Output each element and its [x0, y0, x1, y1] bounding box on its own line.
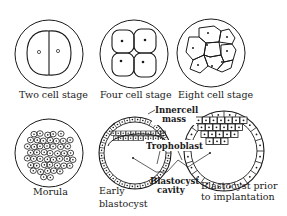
nucleus [112, 178, 114, 180]
nucleus [137, 186, 139, 188]
nucleus [137, 119, 139, 121]
trophoblast-label: Trophoblast [146, 141, 203, 151]
nucleus [224, 140, 226, 142]
nucleus [228, 119, 230, 121]
eight-cell-stage [177, 19, 245, 87]
nucleus [208, 126, 210, 128]
blastomere [112, 53, 134, 76]
nucleus [231, 126, 233, 128]
nucleus [142, 61, 145, 64]
nucleus [30, 164, 32, 166]
nucleus [47, 134, 49, 136]
trophoblast-cell-wall [103, 167, 107, 169]
nucleus [109, 174, 111, 176]
nucleus [43, 176, 45, 178]
late-blastocyst-label-line1: Blastocyst prior [201, 180, 278, 191]
nucleus [130, 138, 131, 139]
trophoblast-cell-wall [166, 158, 171, 159]
nucleus [36, 139, 38, 141]
nucleus [229, 114, 231, 116]
trophoblast-cell-wall [103, 137, 107, 139]
trophoblast-cell-wall [101, 142, 106, 144]
trophoblast-cell-wall [99, 158, 104, 159]
nucleus [226, 50, 228, 52]
nucleus [47, 170, 49, 172]
nucleus [112, 127, 114, 129]
nucleus [259, 144, 261, 146]
nucleus [120, 138, 121, 139]
nucleus [72, 159, 74, 161]
nucleus [60, 146, 62, 148]
nucleus [142, 120, 144, 122]
embryo-stages-diagram: Two cell stage Four cell stage Eight cel… [0, 0, 287, 216]
pointer-dot [132, 157, 134, 159]
nucleus [216, 126, 218, 128]
nucleus [165, 165, 167, 167]
nucleus [103, 139, 105, 141]
four-cell-label: Four cell stage [100, 89, 172, 100]
nucleus [226, 36, 228, 38]
nucleus [53, 170, 55, 172]
nucleus [39, 133, 41, 135]
nucleus [198, 119, 200, 121]
nucleus [259, 156, 261, 158]
trophoblast-cell-wall [192, 170, 198, 174]
nucleus [60, 133, 62, 135]
trophoblast-cell-wall [157, 128, 161, 132]
trophoblast-cell-wall [186, 161, 193, 163]
nucleus [235, 119, 237, 121]
nucleus [33, 146, 35, 148]
trophoblast-cell-wall [129, 117, 130, 122]
nucleus [223, 126, 225, 128]
blastomere-right [49, 31, 71, 75]
nucleus [69, 165, 71, 167]
nucleus [101, 150, 103, 152]
nucleus [206, 44, 208, 46]
nucleus [125, 138, 126, 139]
nucleus [168, 155, 170, 157]
nucleus [143, 133, 144, 134]
nucleus [132, 119, 134, 121]
nucleus [106, 170, 108, 172]
late-blastocyst-label-line2: to implantation [201, 191, 275, 202]
nucleus [128, 133, 129, 134]
nucleus [69, 139, 71, 141]
nucleus [62, 140, 64, 142]
nucleus [256, 134, 258, 136]
nucleus [191, 167, 193, 169]
nucleus [66, 158, 68, 160]
nucleus [256, 167, 258, 169]
nucleus [204, 133, 206, 135]
trophoblast-cell-wall [99, 147, 104, 148]
nucleus [211, 65, 213, 67]
nucleus [126, 185, 128, 187]
nucleus [44, 164, 46, 166]
nucleus [234, 133, 236, 135]
trophoblast-cell-wall [145, 119, 147, 124]
nucleus [133, 133, 134, 134]
nucleus [49, 164, 51, 166]
nucleus [121, 121, 123, 123]
nucleus [243, 119, 245, 121]
nucleus [59, 158, 61, 160]
pointer-line [178, 151, 182, 160]
nucleus [226, 133, 228, 135]
nucleus [59, 171, 61, 173]
nucleus [167, 160, 169, 162]
nucleus [118, 133, 119, 134]
nucleus [27, 146, 29, 148]
nucleus [63, 165, 65, 167]
nucleus [106, 135, 108, 137]
trophoblast-cell-wall [255, 139, 262, 141]
zona-pellucida [100, 20, 168, 88]
nucleus [53, 159, 55, 161]
nucleus [156, 127, 158, 129]
trophoblast-cell-wall [251, 170, 257, 174]
nucleus [63, 153, 65, 155]
nucleus [216, 140, 218, 142]
early-blastocyst-label-line2: blastocyst [99, 198, 148, 209]
nucleus [163, 133, 164, 134]
trophoblast-cell-wall [119, 121, 121, 125]
four-cell-stage [100, 20, 168, 88]
pointer-line [133, 158, 156, 172]
